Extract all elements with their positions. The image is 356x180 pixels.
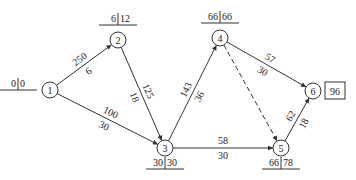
edge-3-4 bbox=[169, 45, 217, 141]
edge-top-label: 57 bbox=[263, 51, 277, 66]
node-6-label: 6 bbox=[311, 86, 316, 97]
node-2-late-time: 12 bbox=[120, 13, 130, 24]
node-4-early-time: 66 bbox=[208, 11, 218, 22]
edge-4-6 bbox=[227, 42, 306, 87]
edge-bottom-label: 36 bbox=[192, 89, 206, 103]
node-1-late-time: 0 bbox=[20, 78, 25, 89]
node-2-label: 2 bbox=[116, 35, 121, 46]
edge-bottom-label: 18 bbox=[128, 90, 142, 104]
node-1-label: 1 bbox=[48, 85, 53, 96]
network-svg: 2506100301251814336583057306218 123456 0… bbox=[0, 0, 356, 180]
edge-top-label: 100 bbox=[102, 104, 120, 121]
final-time-value: 96 bbox=[330, 86, 340, 97]
edge-1-3 bbox=[57, 94, 158, 145]
node-3-late-time: 30 bbox=[167, 157, 177, 168]
node-3-label: 3 bbox=[163, 143, 168, 154]
node-4-late-time: 66 bbox=[222, 11, 232, 22]
edge-1-2 bbox=[56, 45, 111, 86]
node-5-early-time: 66 bbox=[269, 157, 279, 168]
node-1-early-time: 0 bbox=[11, 78, 16, 89]
node-2-early-time: 6 bbox=[111, 13, 116, 24]
edge-top-label: 58 bbox=[218, 135, 228, 146]
edges-layer: 2506100301251814336583057306218 bbox=[56, 42, 310, 161]
node-5-label: 5 bbox=[279, 143, 284, 154]
node-3-early-time: 30 bbox=[153, 157, 163, 168]
edge-bottom-label: 6 bbox=[83, 65, 94, 77]
edge-top-label: 62 bbox=[283, 109, 297, 123]
edge-bottom-label: 30 bbox=[97, 119, 111, 133]
edge-bottom-label: 30 bbox=[218, 150, 228, 161]
edge-bottom-label: 18 bbox=[296, 116, 310, 130]
node-4-label: 4 bbox=[218, 33, 223, 44]
node-5-late-time: 78 bbox=[283, 157, 293, 168]
edge-top-label: 143 bbox=[178, 80, 195, 98]
edge-bottom-label: 30 bbox=[256, 64, 270, 79]
network-diagram: 2506100301251814336583057306218 123456 0… bbox=[0, 0, 356, 180]
